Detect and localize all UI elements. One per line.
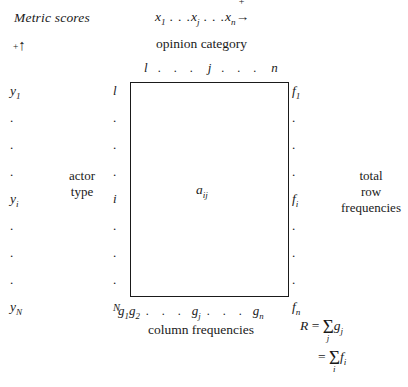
metric-score-ellipsis-dot: . — [10, 138, 44, 165]
total-row-frequencies-line-3: frequencies — [334, 200, 408, 216]
row-frequency-ellipsis-dot: . — [292, 219, 318, 246]
metric-score-value-subscript: i — [16, 199, 19, 209]
row-frequency-ellipsis-dot: . — [292, 246, 318, 273]
cell-subscript: ij — [203, 190, 208, 200]
summation-index-2: i — [333, 364, 336, 374]
summation-operator-2: Σi — [329, 351, 340, 368]
x-ellipsis-right: . . . — [200, 9, 225, 24]
column-index-ellipsis-right: . . . — [221, 61, 261, 75]
right-arrow-icon-wrap: +→ — [236, 9, 250, 25]
column-index-last: n — [271, 60, 278, 75]
total-row-frequencies-label: total row frequencies — [334, 168, 408, 216]
summand-1-subscript: j — [340, 326, 343, 336]
row-index-ellipsis-dot: . — [113, 273, 129, 300]
grand-total-formulas: R = Σjgj = Σifi — [300, 318, 346, 380]
metric-score-value-subscript: N — [16, 307, 22, 317]
actor-type-label: actor type — [52, 168, 112, 200]
g-middle-subscript: j — [198, 311, 200, 321]
metric-scores-matrix-diagram: Metric scores +↑ x1 . . .xj . . .xn+→ op… — [0, 0, 408, 387]
summation-operator-1: Σj — [323, 320, 334, 337]
metric-score-value: yi — [10, 192, 44, 219]
actor-type-line-2: type — [52, 184, 112, 200]
grand-total-symbol: R — [300, 318, 308, 333]
metric-score-ellipsis-dot: . — [10, 246, 44, 273]
row-frequency-ellipsis-dot: . — [292, 273, 318, 300]
grand-total-formula-line-1: R = Σjgj — [300, 318, 346, 349]
row-index-value: i — [113, 192, 129, 219]
column-frequencies-label: column frequencies — [148, 322, 254, 338]
grand-total-formula-line-2: = Σifi — [300, 349, 346, 380]
row-index-value: l — [113, 84, 129, 111]
metric-scores-label: Metric scores — [14, 10, 90, 26]
g-last-subscript: n — [259, 311, 263, 321]
metric-score-ellipsis-dot: . — [10, 165, 44, 192]
metric-score-value-column: y1...yi...yN — [10, 84, 44, 327]
metric-score-ellipsis-dot: . — [10, 219, 44, 246]
actor-type-line-1: actor — [52, 168, 112, 184]
equals-sign-2: = — [318, 349, 326, 364]
row-index-value-symbol: l — [113, 83, 117, 98]
row-frequency-value: fi — [292, 192, 318, 219]
row-frequency-value: f1 — [292, 84, 318, 111]
row-frequency-ellipsis-dot: . — [292, 111, 318, 138]
x-ellipsis-left: . . . — [166, 9, 191, 24]
column-index-header: l. . .j. . .n — [144, 60, 278, 76]
metric-score-value: y1 — [10, 84, 44, 111]
row-index-ellipsis-dot: . — [113, 246, 129, 273]
column-frequency-row: g1g2. . .gj. . .gn — [118, 303, 264, 321]
g-second-subscript: 2 — [135, 311, 139, 321]
metric-score-ellipsis-dot: . — [10, 273, 44, 300]
vertical-axis-arrow-marker: +↑ — [13, 38, 26, 53]
row-frequency-value-subscript: i — [296, 199, 299, 209]
metric-score-value: yN — [10, 300, 44, 327]
cell-symbol: a — [196, 182, 203, 197]
row-index-column: l...i...N — [113, 84, 129, 327]
column-index-first: l — [144, 60, 148, 75]
row-index-ellipsis-dot: . — [113, 111, 129, 138]
row-frequency-value-subscript: 1 — [296, 91, 301, 101]
row-index-ellipsis-dot: . — [113, 219, 129, 246]
row-index-ellipsis-dot: . — [113, 165, 129, 192]
matrix-generic-cell-label: aij — [196, 182, 208, 200]
g-ellipsis-left: . . . — [146, 304, 186, 318]
g-ellipsis-right: . . . — [207, 304, 247, 318]
plus-sign-horizontal: + — [239, 0, 245, 7]
right-arrow-icon: → — [236, 9, 250, 24]
row-index-ellipsis-dot: . — [113, 138, 129, 165]
row-index-value-symbol: i — [113, 191, 117, 206]
summation-index-1: j — [327, 333, 330, 343]
summand-2-subscript: i — [344, 357, 347, 367]
row-frequency-column: f1...fi...fn — [292, 84, 318, 327]
row-frequency-value-subscript: n — [296, 307, 301, 317]
horizontal-axis-score-row: x1 . . .xj . . .xn+→ — [155, 9, 249, 27]
total-row-frequencies-line-1: total — [334, 168, 408, 184]
opinion-category-label: opinion category — [156, 36, 247, 52]
metric-score-ellipsis-dot: . — [10, 111, 44, 138]
matrix-rectangle — [130, 82, 289, 297]
column-index-ellipsis-left: . . . — [158, 61, 198, 75]
metric-score-value-subscript: 1 — [16, 91, 21, 101]
row-frequency-ellipsis-dot: . — [292, 138, 318, 165]
equals-sign-1: = — [312, 318, 320, 333]
total-row-frequencies-line-2: row — [334, 184, 408, 200]
row-frequency-ellipsis-dot: . — [292, 165, 318, 192]
column-index-middle: j — [208, 60, 212, 75]
up-arrow-icon: ↑ — [18, 37, 26, 53]
